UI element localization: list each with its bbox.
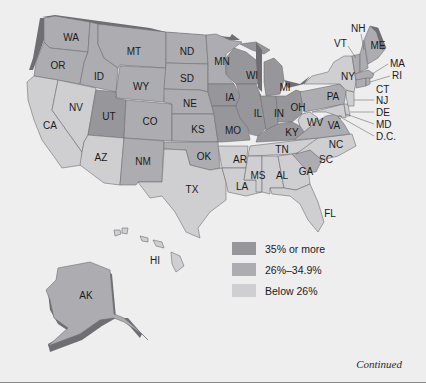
label-KY: KY bbox=[285, 127, 299, 138]
label-TN: TN bbox=[275, 144, 288, 155]
legend-label-high: 35% or more bbox=[265, 243, 325, 255]
svg-text:NJ: NJ bbox=[376, 95, 388, 106]
label-AZ: AZ bbox=[95, 152, 108, 163]
label-ME: ME bbox=[371, 40, 386, 51]
map-page: WA OR CA ID NV MT WY UT AZ CO NM ND SD N… bbox=[0, 0, 426, 382]
callout-VT: VT bbox=[334, 38, 356, 58]
label-WI: WI bbox=[246, 70, 258, 81]
legend-item-low: Below 26% bbox=[232, 280, 325, 301]
label-AK: AK bbox=[79, 290, 93, 301]
svg-text:DE: DE bbox=[376, 107, 390, 118]
legend-item-high: 35% or more bbox=[232, 238, 325, 259]
label-ID: ID bbox=[94, 71, 104, 82]
label-NM: NM bbox=[135, 156, 151, 167]
state-RI[interactable] bbox=[366, 78, 370, 86]
label-FL: FL bbox=[324, 208, 336, 219]
label-CA: CA bbox=[43, 120, 57, 131]
svg-text:RI: RI bbox=[392, 70, 402, 81]
page-bottom-rule bbox=[0, 382, 426, 386]
label-WV: WV bbox=[307, 117, 323, 128]
callout-CT: CT bbox=[376, 84, 389, 95]
label-WA: WA bbox=[63, 32, 79, 43]
label-NE: NE bbox=[183, 98, 197, 109]
svg-text:MA: MA bbox=[390, 58, 405, 69]
label-AL: AL bbox=[276, 170, 289, 181]
label-CO: CO bbox=[143, 116, 158, 127]
label-AR: AR bbox=[233, 154, 247, 165]
label-WY: WY bbox=[133, 81, 149, 92]
continued-note: Continued bbox=[356, 358, 402, 370]
svg-text:CT: CT bbox=[376, 84, 389, 95]
legend: 35% or more 26%–34.9% Below 26% bbox=[232, 238, 325, 301]
lake-michigan-shadow bbox=[256, 42, 262, 92]
us-map: WA OR CA ID NV MT WY UT AZ CO NM ND SD N… bbox=[0, 0, 426, 382]
callout-NH: NH bbox=[351, 23, 365, 50]
legend-item-mid: 26%–34.9% bbox=[232, 259, 325, 280]
label-UT: UT bbox=[102, 111, 115, 122]
label-ND: ND bbox=[180, 46, 194, 57]
state-FL[interactable] bbox=[270, 184, 324, 232]
label-GA: GA bbox=[299, 166, 314, 177]
label-HI: HI bbox=[150, 255, 160, 266]
callout-DE: DE bbox=[350, 107, 390, 118]
label-OH: OH bbox=[291, 102, 306, 113]
label-TX: TX bbox=[186, 184, 199, 195]
label-IN: IN bbox=[274, 108, 284, 119]
state-NJ[interactable] bbox=[346, 90, 354, 106]
legend-swatch-mid bbox=[232, 263, 256, 276]
label-SC: SC bbox=[319, 154, 333, 165]
state-IA[interactable] bbox=[208, 84, 240, 106]
label-OK: OK bbox=[197, 151, 212, 162]
label-PA: PA bbox=[327, 91, 340, 102]
callout-NJ: NJ bbox=[354, 95, 388, 106]
label-LA: LA bbox=[236, 181, 249, 192]
label-VA: VA bbox=[328, 120, 341, 131]
state-AK[interactable] bbox=[46, 262, 148, 346]
label-MI: MI bbox=[279, 82, 290, 93]
label-SD: SD bbox=[180, 73, 194, 84]
legend-swatch-low bbox=[232, 284, 256, 297]
legend-label-mid: 26%–34.9% bbox=[265, 264, 322, 276]
label-MO: MO bbox=[225, 125, 241, 136]
svg-text:D.C.: D.C. bbox=[376, 131, 396, 142]
legend-label-low: Below 26% bbox=[265, 285, 318, 297]
svg-text:MD: MD bbox=[376, 119, 392, 130]
legend-swatch-high bbox=[232, 242, 256, 255]
label-NV: NV bbox=[69, 102, 83, 113]
label-NY: NY bbox=[341, 71, 355, 82]
label-IA: IA bbox=[225, 92, 235, 103]
label-OR: OR bbox=[51, 60, 66, 71]
label-KS: KS bbox=[191, 124, 205, 135]
label-MS: MS bbox=[251, 170, 266, 181]
state-HI[interactable] bbox=[114, 228, 184, 272]
svg-text:NH: NH bbox=[351, 23, 365, 34]
label-MN: MN bbox=[214, 56, 230, 67]
label-NC: NC bbox=[329, 139, 343, 150]
state-CT[interactable] bbox=[356, 78, 366, 88]
svg-text:VT: VT bbox=[334, 38, 347, 49]
label-MT: MT bbox=[127, 46, 141, 57]
callout-RI: RI bbox=[370, 70, 402, 82]
label-IL: IL bbox=[254, 108, 263, 119]
